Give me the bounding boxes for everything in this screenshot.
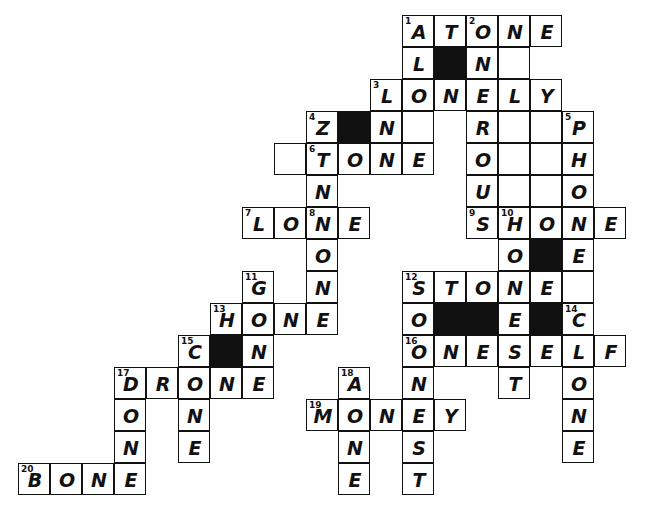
crossword-cell[interactable]: F [594,335,626,367]
crossword-cell[interactable]: O [498,239,530,271]
crossword-cell[interactable]: L [402,47,434,79]
crossword-cell[interactable]: N [562,207,594,239]
crossword-cell[interactable]: O [338,143,370,175]
crossword-cell[interactable]: O [402,303,434,335]
crossword-cell[interactable] [498,47,530,79]
crossword-cell[interactable]: L [498,79,530,111]
crossword-cell[interactable]: 10H [498,207,530,239]
crossword-cell[interactable]: O [242,303,274,335]
crossword-cell[interactable]: 8N [306,207,338,239]
crossword-cell[interactable]: S [498,335,530,367]
crossword-cell[interactable] [530,143,562,175]
crossword-cell[interactable]: E [402,399,434,431]
crossword-cell[interactable]: L [562,335,594,367]
crossword-cell[interactable] [498,111,530,143]
crossword-cell[interactable]: E [498,303,530,335]
crossword-cell[interactable]: O [466,271,498,303]
crossword-cell[interactable] [274,143,306,175]
crossword-cell[interactable]: R [146,367,178,399]
crossword-cell[interactable]: 12S [402,271,434,303]
crossword-cell[interactable]: N [306,175,338,207]
crossword-cell[interactable]: 20B [18,463,50,495]
crossword-cell[interactable]: O [402,79,434,111]
crossword-cell[interactable] [498,175,530,207]
crossword-cell[interactable]: 17D [114,367,146,399]
crossword-cell[interactable]: 1A [402,15,434,47]
crossword-cell[interactable]: E [338,207,370,239]
crossword-cell[interactable]: 16O [402,335,434,367]
crossword-cell[interactable]: 6T [306,143,338,175]
crossword-cell[interactable]: 13H [210,303,242,335]
crossword-cell[interactable] [530,111,562,143]
crossword-cell[interactable]: N [114,431,146,463]
crossword-cell[interactable]: 19M [306,399,338,431]
crossword-cell[interactable]: 3L [370,79,402,111]
crossword-cell[interactable]: O [562,367,594,399]
crossword-cell[interactable]: 9S [466,207,498,239]
crossword-cell[interactable]: N [434,79,466,111]
cell-letter: E [403,400,433,430]
crossword-cell[interactable]: N [274,303,306,335]
crossword-cell[interactable]: N [498,15,530,47]
crossword-cell[interactable]: E [402,143,434,175]
crossword-cell[interactable]: E [530,15,562,47]
crossword-cell[interactable]: 2O [466,15,498,47]
crossword-cell[interactable]: N [370,143,402,175]
crossword-cell[interactable]: N [338,431,370,463]
crossword-cell[interactable]: N [242,335,274,367]
crossword-cell[interactable]: E [242,367,274,399]
crossword-cell[interactable]: N [562,399,594,431]
crossword-cell[interactable]: T [402,463,434,495]
crossword-cell[interactable]: N [370,111,402,143]
crossword-cell[interactable]: 4Z [306,111,338,143]
crossword-cell[interactable]: N [402,367,434,399]
crossword-cell[interactable]: E [530,271,562,303]
crossword-cell[interactable]: 5P [562,111,594,143]
crossword-cell[interactable] [530,175,562,207]
crossword-cell[interactable]: 11G [242,271,274,303]
crossword-cell[interactable]: O [466,143,498,175]
crossword-cell[interactable]: E [562,431,594,463]
crossword-cell[interactable]: Y [434,399,466,431]
crossword-cell[interactable]: N [370,399,402,431]
crossword-cell[interactable]: E [306,303,338,335]
crossword-cell[interactable]: N [178,399,210,431]
crossword-cell[interactable]: 15C [178,335,210,367]
crossword-cell[interactable]: N [210,367,242,399]
crossword-cell[interactable]: R [466,111,498,143]
crossword-cell[interactable]: O [50,463,82,495]
crossword-cell[interactable]: U [466,175,498,207]
crossword-cell[interactable]: T [498,367,530,399]
crossword-cell[interactable] [562,271,594,303]
crossword-cell[interactable]: S [402,431,434,463]
crossword-cell[interactable]: N [498,271,530,303]
crossword-cell[interactable]: N [434,335,466,367]
crossword-cell[interactable]: O [338,399,370,431]
crossword-cell[interactable]: O [178,367,210,399]
crossword-cell[interactable]: E [562,239,594,271]
crossword-cell[interactable]: O [274,207,306,239]
crossword-cell[interactable]: E [338,463,370,495]
crossword-cell[interactable]: E [530,335,562,367]
crossword-cell[interactable]: 7L [242,207,274,239]
crossword-cell[interactable]: 14C [562,303,594,335]
crossword-cell[interactable]: E [594,207,626,239]
crossword-cell[interactable]: T [434,15,466,47]
crossword-cell[interactable]: T [434,271,466,303]
crossword-cell[interactable]: E [466,335,498,367]
crossword-cell[interactable] [498,143,530,175]
crossword-cell[interactable]: Y [530,79,562,111]
crossword-cell[interactable]: 18A [338,367,370,399]
crossword-cell[interactable]: E [466,79,498,111]
crossword-cell[interactable]: O [562,175,594,207]
crossword-cell[interactable]: E [178,431,210,463]
crossword-cell[interactable]: O [530,207,562,239]
crossword-cell[interactable]: E [114,463,146,495]
crossword-cell[interactable]: H [562,143,594,175]
crossword-cell[interactable]: O [306,239,338,271]
crossword-cell[interactable]: N [466,47,498,79]
crossword-cell[interactable]: N [306,271,338,303]
crossword-cell[interactable]: N [82,463,114,495]
crossword-cell[interactable] [402,111,434,143]
crossword-cell[interactable]: O [114,399,146,431]
